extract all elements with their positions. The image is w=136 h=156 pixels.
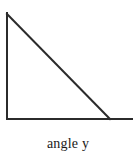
figure-caption-row: angle y	[0, 133, 136, 153]
figure-caption: angle y	[47, 135, 89, 152]
diagram-background	[0, 0, 136, 126]
right-triangle-diagram	[0, 0, 136, 126]
figure-root: angle y	[0, 0, 136, 156]
